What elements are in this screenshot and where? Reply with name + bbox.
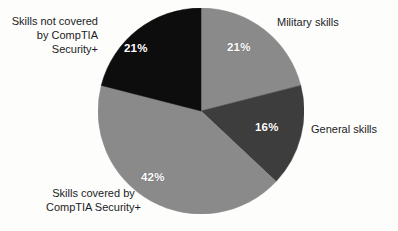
category-label-general-skills: General skills [311, 122, 377, 136]
category-label-skills-not-covered: Skills not covered by CompTIA Security+ [6, 14, 98, 56]
category-label-skills-covered: Skills covered by CompTIA Security+ [26, 186, 161, 214]
slice-value-military-skills: 21% [227, 41, 251, 53]
category-label-military-skills: Military skills [277, 15, 339, 29]
label-line-2: by CompTIA [6, 28, 98, 42]
pie-chart-figure: 21% 21% 16% 42% Skills not covered by Co… [0, 0, 398, 231]
label-line-1: Skills covered by [26, 186, 161, 200]
label-line-3: Security+ [6, 42, 98, 56]
label-line-1: Military skills [277, 15, 339, 29]
pie-chart-graphic [98, 8, 304, 214]
label-line-2: CompTIA Security+ [26, 200, 161, 214]
slice-value-general-skills: 16% [255, 121, 279, 133]
pie-slice-group [98, 8, 304, 214]
label-line-1: Skills not covered [6, 14, 98, 28]
label-line-1: General skills [311, 122, 377, 136]
slice-value-skills-not-covered: 21% [124, 42, 148, 54]
slice-value-skills-covered: 42% [141, 171, 165, 183]
pie-svg [98, 8, 304, 214]
